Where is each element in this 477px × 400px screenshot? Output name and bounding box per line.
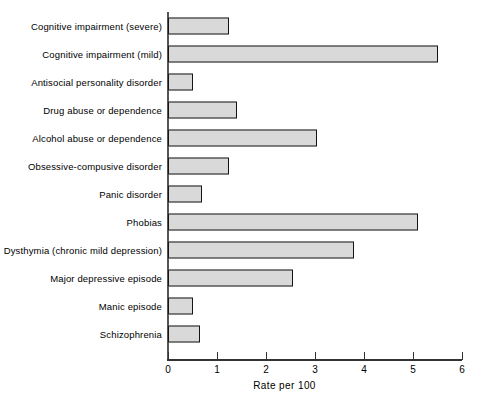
bar-chart: Cognitive impairment (severe)Cognitive i… bbox=[0, 0, 477, 400]
x-axis-tick-label: 4 bbox=[361, 364, 367, 375]
x-axis-title: Rate per 100 bbox=[0, 380, 477, 391]
x-axis-title-label: Rate per 100 bbox=[253, 380, 316, 391]
x-axis-ticks-container: 0123456 bbox=[0, 0, 477, 400]
x-axis-tick-label: 1 bbox=[214, 364, 220, 375]
x-axis-tick-label: 6 bbox=[459, 364, 465, 375]
x-axis-tick bbox=[364, 352, 365, 360]
x-axis-tick bbox=[413, 352, 414, 360]
x-axis-tick bbox=[168, 352, 169, 360]
x-axis-tick-label: 5 bbox=[410, 364, 416, 375]
x-axis-tick-label: 3 bbox=[312, 364, 318, 375]
x-axis-tick bbox=[217, 352, 218, 360]
x-axis-tick-label: 2 bbox=[263, 364, 269, 375]
x-axis-tick bbox=[266, 352, 267, 360]
x-axis-tick bbox=[462, 352, 463, 360]
x-axis-tick-label: 0 bbox=[165, 364, 171, 375]
x-axis-tick bbox=[315, 352, 316, 360]
